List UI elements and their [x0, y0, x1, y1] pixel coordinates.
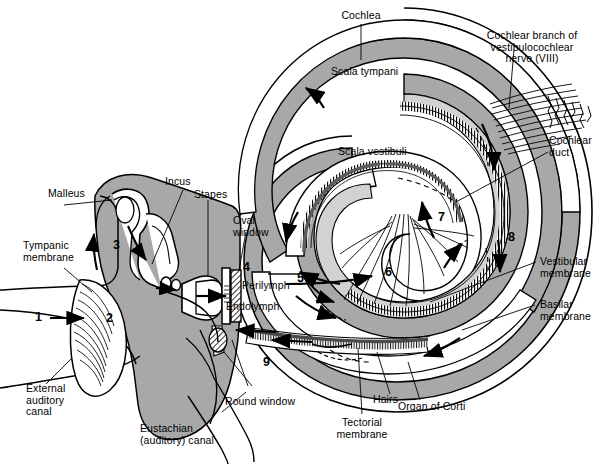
label-cochlear-duct: Cochlear duct	[549, 135, 592, 158]
label-round-window: Round window	[225, 396, 295, 408]
step-number-7: 7	[438, 211, 445, 224]
oval-window-hatch	[231, 270, 241, 322]
label-stapes: Stapes	[194, 189, 227, 201]
label-incus: Incus	[165, 176, 191, 188]
label-tectorial-membrane: Tectorial membrane	[329, 417, 395, 440]
label-scala-vestibuli: Scala vestibuli	[338, 146, 407, 158]
step-number-5: 5	[297, 272, 304, 285]
label-perilymph: Perilymph	[242, 280, 290, 292]
label-organ-of-corti: Organ of Corti	[398, 401, 465, 413]
label-cochlea: Cochlea	[329, 10, 393, 22]
cochlea-spiral	[232, 8, 592, 412]
label-basilar-membrane: Basilar membrane	[540, 299, 591, 322]
step-number-6: 6	[385, 266, 392, 279]
label-external-auditory-canal: External auditory canal	[26, 383, 65, 418]
label-endolymph: Endolymph	[226, 301, 279, 313]
step-number-2: 2	[106, 312, 113, 325]
label-scala-tympani: Scala tympani	[331, 66, 398, 78]
step-number-1: 1	[35, 311, 42, 324]
label-malleus: Malleus	[48, 188, 85, 200]
label-cochlear-nerve: Cochlear branch of vestibulocochlear ner…	[472, 30, 592, 65]
step-number-4: 4	[243, 261, 250, 274]
step-number-3: 3	[113, 239, 120, 252]
label-vestibular-membrane: Vestibular membrane	[540, 256, 591, 279]
step-number-9: 9	[263, 356, 270, 369]
label-oval-window: Oval window	[233, 215, 269, 238]
label-hairs: Hairs	[373, 394, 398, 406]
label-tympanic-membrane: Tympanic membrane	[23, 240, 74, 263]
label-eustachian-canal: Eustachian (auditory) canal	[140, 423, 214, 446]
ear-anatomy-diagram: Cochlea Scala tympani Scala vestibuli Co…	[0, 0, 599, 464]
step-number-8: 8	[508, 231, 515, 244]
